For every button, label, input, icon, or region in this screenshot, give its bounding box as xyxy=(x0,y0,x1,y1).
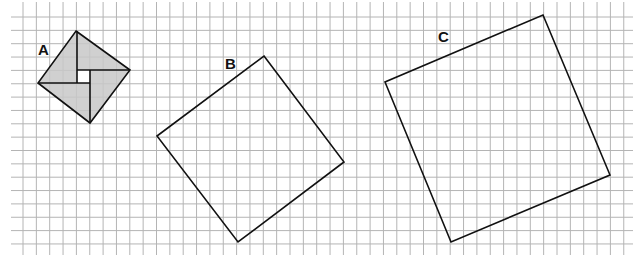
label-b: B xyxy=(225,55,236,72)
label-c: C xyxy=(438,28,449,45)
grid-diagram: A B C xyxy=(0,0,641,264)
square-c xyxy=(385,15,610,242)
grid-lines xyxy=(11,2,633,255)
square-outline xyxy=(385,15,610,242)
label-a: A xyxy=(38,41,49,58)
shapes-layer xyxy=(38,15,610,242)
inner-square xyxy=(77,70,90,83)
